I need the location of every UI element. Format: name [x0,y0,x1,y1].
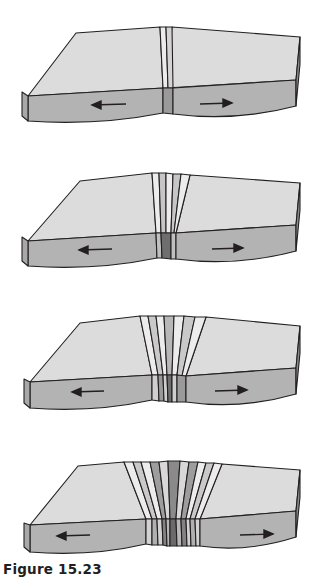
left-plate-side-face [24,379,30,408]
rift-front-stripe-5 [166,519,170,546]
block-diagram-stage-2 [0,145,325,290]
left-plate-top [28,27,163,96]
stage-2-illustration [0,145,325,290]
left-plate-side-face [24,523,30,552]
rift-front-stripe-axis [167,375,172,402]
rift-front-stripe-1 [146,519,152,545]
left-plate-top [30,316,152,382]
left-plate-front-face [30,519,146,553]
left-plate-side-face [22,92,28,121]
block-diagram-stage-3 [0,290,325,435]
block-diagram-stage-4 [0,435,325,580]
left-plate-top [28,173,156,241]
stage-4-illustration [0,435,325,580]
right-plate-top [176,175,300,233]
left-plate-side-face [22,237,28,266]
right-plate-top [166,27,300,88]
stage-3-illustration [0,290,325,435]
figure-root: Figure 15.23 [0,0,325,581]
figure-caption: Figure 15.23 [3,561,102,577]
rift-front-face-light-2 [171,233,176,259]
rift-front-face [163,88,173,114]
stage-1-illustration [0,0,325,145]
rift-front-stripe-5 [177,375,186,402]
rift-front-stripe-10 [195,519,200,546]
rift-front-stripe-4 [172,375,177,402]
block-diagram-stage-1 [0,0,325,145]
rift-front-face-dark [161,233,171,259]
